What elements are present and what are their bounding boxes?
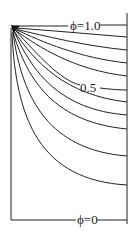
field-curves <box>12 28 127 185</box>
field-curve-tail <box>100 88 127 90</box>
field-curve <box>15 30 80 85</box>
field-curve <box>15 29 127 63</box>
field-curve <box>12 33 127 185</box>
label-half: 0.5 <box>80 80 96 95</box>
label-phi-zero: ϕ=0 <box>77 212 98 227</box>
label-phi-one: ϕ=1.0 <box>70 18 100 33</box>
equipotential-diagram: ϕ=1.0 0.5 ϕ=0 <box>0 0 140 234</box>
